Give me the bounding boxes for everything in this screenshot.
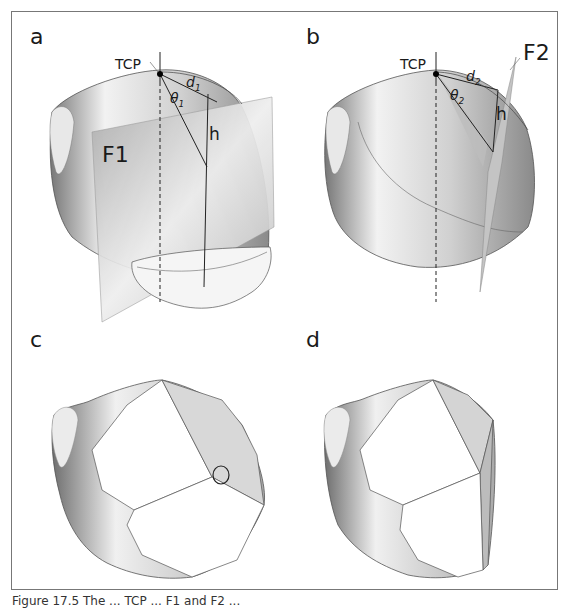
plane-label-f2: F2 [523,40,550,65]
tooth-model-c [12,325,288,590]
angle-label: θ2 [450,87,464,106]
tcp-label: TCP [115,56,141,72]
panel-a: a TCP d1 θ1 h F1 [12,12,288,302]
tooth-body [325,70,535,267]
distance-label: d1 [186,74,201,93]
figure-caption: Figure 17.5 The ... TCP ... F1 and F2 ..… [12,594,240,608]
angle-label: θ1 [170,90,184,109]
panel-label-b: b [306,24,320,49]
plane-label-f1: F1 [102,142,129,167]
panel-label-d: d [306,327,320,352]
tcp-point [433,71,439,77]
panel-label-c: c [30,327,42,352]
tcp-label: TCP [400,56,426,72]
height-label: h [496,104,507,124]
height-label: h [209,124,220,144]
panel-label-a: a [30,24,43,49]
distance-label: d2 [466,68,481,87]
tooth-model-a [12,12,288,302]
panel-b: b TCP d2 θ2 h F2 [288,12,558,302]
tooth-model-d [288,325,558,590]
panel-d: d [288,325,558,590]
panel-c: c [12,325,288,590]
